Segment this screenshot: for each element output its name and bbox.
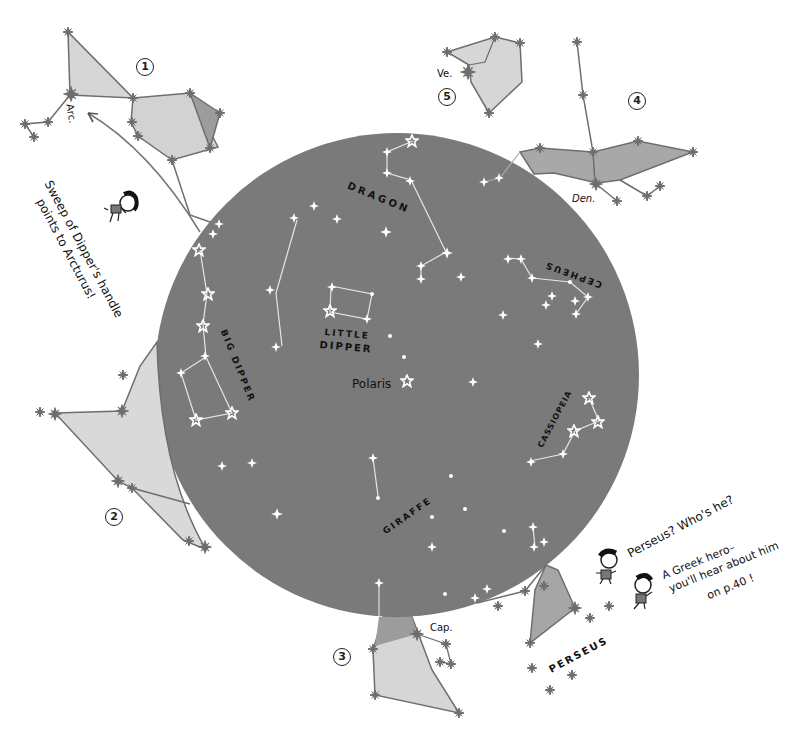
region-number-5: 5 xyxy=(438,88,456,106)
constellation-5 xyxy=(442,32,525,118)
cartoon-boy-1 xyxy=(104,193,137,222)
cartoon-boy-2 xyxy=(596,551,617,584)
label-deneb: Den. xyxy=(572,193,595,204)
star-chart xyxy=(0,0,800,741)
label-polaris: Polaris xyxy=(352,377,391,391)
region-number-1: 1 xyxy=(136,58,154,76)
label-vega: Ve. xyxy=(437,68,452,79)
region-number-3: 3 xyxy=(333,648,351,666)
label-capella: Cap. xyxy=(430,622,453,633)
region-number-2: 2 xyxy=(105,508,123,526)
region-number-4: 4 xyxy=(628,92,646,110)
cartoon-boy-3 xyxy=(634,575,652,609)
